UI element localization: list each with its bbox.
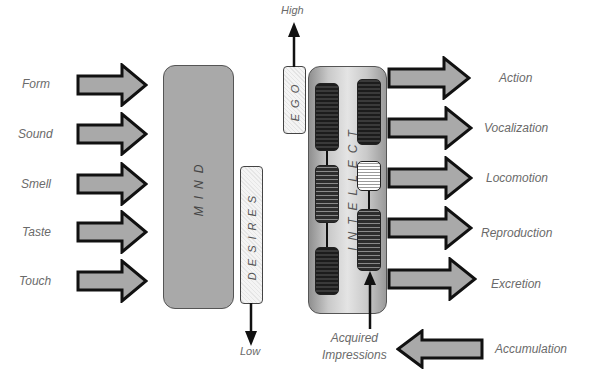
- output-label-excretion: Excretion: [491, 277, 541, 291]
- output-label-reproduction: Reproduction: [481, 226, 552, 240]
- low-label: Low: [240, 345, 260, 357]
- connector-line: [368, 191, 370, 209]
- mind-box: MIND: [163, 65, 234, 309]
- desires-box: DESIRES: [240, 166, 263, 304]
- input-label-form: Form: [22, 77, 50, 91]
- input-arrow-touch: [76, 259, 148, 303]
- input-label-sound: Sound: [18, 127, 53, 141]
- acquired-impressions-label: Acquired Impressions: [322, 330, 387, 364]
- input-arrow-smell: [76, 162, 148, 206]
- arrow-down-icon: [244, 303, 258, 347]
- input-label-taste: Taste: [22, 225, 51, 239]
- input-label-touch: Touch: [19, 274, 51, 288]
- intellect-cell: [315, 247, 339, 295]
- input-arrow-taste: [76, 210, 148, 254]
- output-label-action: Action: [499, 71, 532, 85]
- intellect-cell: [315, 83, 339, 151]
- ego-label: EGO: [289, 79, 301, 121]
- connector-line: [326, 223, 328, 247]
- output-label-vocalization: Vocalization: [484, 121, 548, 135]
- intellect-cell: [357, 209, 381, 271]
- input-arrow-form: [76, 63, 148, 107]
- output-arrow-action: [387, 56, 471, 100]
- high-label: High: [281, 4, 304, 16]
- acquired-impressions-line1: Acquired: [322, 330, 387, 347]
- ego-box: EGO: [283, 66, 306, 134]
- intellect-cell: [357, 79, 381, 145]
- connector-line: [326, 151, 328, 165]
- output-arrow-excretion: [387, 257, 477, 301]
- mind-label: MIND: [192, 158, 206, 217]
- feedback-arrow-left: [396, 329, 484, 369]
- output-arrow-vocalization: [387, 106, 473, 150]
- input-arrow-sound: [76, 112, 148, 156]
- desires-label: DESIRES: [246, 190, 258, 280]
- intellect-cell: [357, 161, 381, 191]
- arrow-up-icon: [287, 22, 301, 67]
- arrow-up-icon: [363, 271, 377, 329]
- accumulation-label: Accumulation: [495, 342, 567, 356]
- acquired-impressions-line2: Impressions: [322, 347, 387, 364]
- output-label-locomotion: Locomotion: [486, 171, 548, 185]
- output-arrow-locomotion: [387, 156, 473, 200]
- input-label-smell: Smell: [21, 177, 51, 191]
- intellect-cell: [315, 165, 339, 223]
- output-arrow-reproduction: [387, 206, 473, 250]
